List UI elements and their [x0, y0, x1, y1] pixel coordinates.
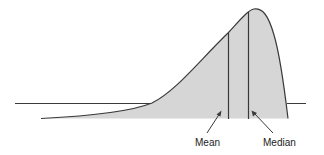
median-label: Median — [263, 137, 296, 148]
distribution-area — [41, 9, 288, 119]
skewed-distribution-diagram: Mean Median — [0, 0, 324, 155]
mean-label: Mean — [195, 137, 220, 148]
